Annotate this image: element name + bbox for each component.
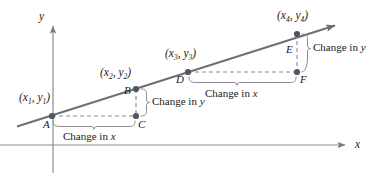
coord-3-sub1: 3 bbox=[174, 53, 178, 62]
brace-change-in-x-right bbox=[189, 77, 296, 86]
diagram-canvas bbox=[0, 0, 376, 174]
coord-label-point-4: (x4, y4) bbox=[277, 10, 308, 22]
point-label-e: E bbox=[286, 44, 293, 55]
coord-4-close: ) bbox=[304, 9, 308, 21]
point-b-dot bbox=[133, 86, 139, 92]
change-x-right-prefix: Change in bbox=[205, 87, 253, 99]
x-axis-label: x bbox=[355, 139, 360, 151]
coord-4-mid: , y bbox=[290, 9, 301, 21]
point-label-a: A bbox=[43, 119, 50, 130]
coord-2-mid: , y bbox=[113, 66, 124, 78]
coord-1-sub2: 1 bbox=[43, 97, 47, 106]
brace-change-in-y-right bbox=[302, 34, 311, 72]
change-y-left-prefix: Change in bbox=[152, 95, 200, 107]
annotation-change-in-y-left: Change in y bbox=[152, 96, 205, 107]
point-label-f: F bbox=[300, 74, 307, 85]
point-d-dot bbox=[185, 69, 191, 75]
coord-1-mid: , y bbox=[32, 91, 43, 103]
brace-change-in-y-left bbox=[141, 89, 150, 116]
change-y-left-var: y bbox=[200, 95, 205, 107]
point-label-d: D bbox=[176, 74, 184, 85]
coord-3-open: (x bbox=[165, 47, 174, 59]
point-label-c: C bbox=[138, 119, 145, 130]
point-label-b: B bbox=[124, 85, 131, 96]
annotation-change-in-x-right: Change in x bbox=[205, 88, 258, 99]
y-axis-label: y bbox=[39, 11, 44, 23]
coord-2-open: (x bbox=[100, 66, 109, 78]
point-e-dot bbox=[294, 31, 300, 37]
coord-1-close: ) bbox=[46, 91, 50, 103]
slope-diagram-figure: y x (x1, y1) (x2, y2) (x3, y3) (x4, y4) … bbox=[0, 0, 376, 174]
brace-change-in-x-left bbox=[53, 121, 135, 130]
coord-1-open: (x bbox=[19, 91, 28, 103]
coord-label-point-1: (x1, y1) bbox=[19, 92, 50, 104]
change-x-left-var: x bbox=[111, 130, 116, 142]
coord-2-close: ) bbox=[127, 66, 131, 78]
change-x-left-prefix: Change in bbox=[63, 130, 111, 142]
annotation-change-in-y-right: Change in y bbox=[313, 42, 366, 53]
coord-4-open: (x bbox=[277, 9, 286, 21]
coord-3-close: ) bbox=[192, 47, 196, 59]
change-y-right-prefix: Change in bbox=[313, 41, 361, 53]
change-x-right-var: x bbox=[253, 87, 258, 99]
coord-4-sub1: 4 bbox=[286, 15, 290, 24]
coord-3-sub2: 3 bbox=[189, 53, 193, 62]
coord-label-point-3: (x3, y3) bbox=[165, 48, 196, 60]
coord-1-sub1: 1 bbox=[28, 97, 32, 106]
change-y-right-var: y bbox=[361, 41, 366, 53]
coord-2-sub2: 2 bbox=[124, 72, 128, 81]
coord-2-sub1: 2 bbox=[109, 72, 113, 81]
coord-4-sub2: 4 bbox=[301, 15, 305, 24]
coord-3-mid: , y bbox=[178, 47, 189, 59]
coord-label-point-2: (x2, y2) bbox=[100, 67, 131, 79]
annotation-change-in-x-left: Change in x bbox=[63, 131, 116, 142]
